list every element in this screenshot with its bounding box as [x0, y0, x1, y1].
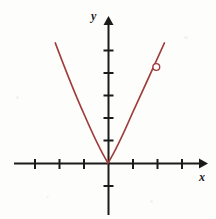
open-circle-point — [153, 64, 160, 71]
y-axis-arrowhead — [104, 16, 114, 25]
x-axis-arrowhead — [199, 159, 208, 169]
y-axis-label: y — [91, 10, 96, 22]
coordinate-plane — [0, 0, 216, 219]
graph-figure: y x — [0, 0, 216, 219]
parabola-curve — [55, 43, 164, 163]
x-axis-label: x — [199, 171, 205, 183]
